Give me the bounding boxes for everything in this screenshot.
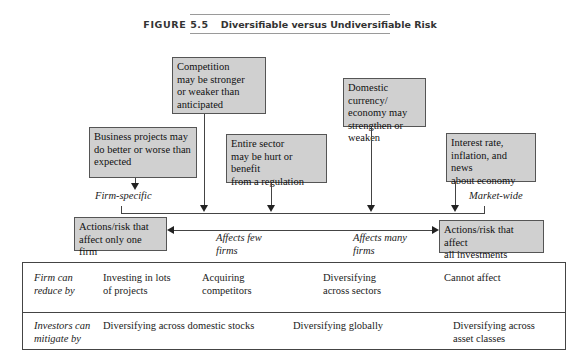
competition-line-2: may be stronger: [177, 74, 261, 87]
cell-line: competitors: [202, 284, 252, 297]
business-line-1: Business projects may: [94, 131, 192, 144]
affects-many-line-2: firms: [353, 245, 407, 258]
sector-connector: [271, 183, 272, 206]
competition-line-4: anticipated: [177, 99, 261, 112]
business-projects-box: Business projects may do better or worse…: [89, 127, 197, 178]
table-cell: Diversifying across asset classes: [453, 319, 535, 345]
arrow-down-icon: [367, 205, 375, 212]
interest-connector: [455, 182, 456, 206]
entire-sector-box: Entire sector may be hurt or benefit fro…: [226, 134, 327, 183]
interest-line-3: about economy: [451, 175, 531, 188]
arrow-down-icon: [200, 205, 208, 212]
domestic-line-1: Domestic currency/: [348, 82, 421, 107]
cell-line: Cannot affect: [444, 271, 501, 284]
double-arrow-line: [174, 230, 432, 231]
row-label-line: mitigate by: [34, 332, 90, 345]
all-investments-box: Actions/risk that affect all investments: [439, 220, 544, 253]
mitigation-table: Firm can reduce by Investing in lots of …: [22, 262, 566, 350]
table-cell: Acquiring competitors: [202, 271, 252, 297]
cell-line: asset classes: [453, 332, 535, 345]
row-label-line: Firm can: [34, 271, 75, 284]
domestic-line-3: strengthen or weaken: [348, 120, 421, 145]
one-firm-line-1: Actions/risk that: [79, 221, 162, 234]
row-label-investors: Investors can mitigate by: [34, 319, 90, 345]
table-divider: [23, 312, 565, 313]
risk-spectrum-line: [121, 213, 485, 214]
left-tick: [121, 206, 122, 214]
row-label-firm: Firm can reduce by: [34, 271, 75, 297]
sector-line-3: from a regulation: [231, 176, 322, 189]
table-cell: Diversifying across sectors: [323, 271, 381, 297]
cell-line: Acquiring: [202, 271, 252, 284]
all-investments-line-1: Actions/risk that affect: [444, 224, 539, 249]
figure-title-bar: FIGURE 5.5 Diversifiable versus Undivers…: [190, 14, 390, 34]
business-line-2: do better or worse than: [94, 144, 192, 157]
row-label-line: Investors can: [34, 319, 90, 332]
affects-many-label: Affects many firms: [353, 232, 407, 257]
arrow-down-icon: [267, 205, 275, 212]
cell-line: of projects: [103, 284, 171, 297]
competition-line-1: Competition: [177, 61, 261, 74]
affects-few-line-1: Affects few: [216, 232, 262, 245]
arrow-down-icon: [451, 205, 459, 212]
row-label-line: reduce by: [34, 284, 75, 297]
affects-few-line-2: firms: [216, 245, 262, 258]
competition-line-3: or weaker than: [177, 86, 261, 99]
figure-title: Diversifiable versus Undiversifiable Ris…: [221, 19, 437, 30]
cell-line: Diversifying globally: [293, 319, 383, 332]
firm-specific-label: Firm-specific: [95, 190, 152, 203]
table-cell: Diversifying globally: [293, 319, 383, 332]
arrow-right-icon: [432, 226, 439, 234]
interest-rate-box: Interest rate, inflation, and news about…: [446, 133, 536, 182]
cell-line: Diversifying across: [453, 319, 535, 332]
cell-line: across sectors: [323, 284, 381, 297]
competition-box: Competition may be stronger or weaker th…: [172, 57, 266, 114]
table-cell: Cannot affect: [444, 271, 501, 284]
one-firm-box: Actions/risk that affect only one firm: [74, 217, 167, 251]
market-wide-label: Market-wide: [469, 190, 523, 203]
domestic-currency-box: Domestic currency/ economy may strengthe…: [343, 78, 426, 127]
figure-number: FIGURE 5.5: [143, 19, 208, 30]
affects-many-line-1: Affects many: [353, 232, 407, 245]
affects-few-label: Affects few firms: [216, 232, 262, 257]
table-cell: Diversifying across domestic stocks: [103, 319, 254, 332]
competition-connector: [204, 114, 205, 206]
interest-line-2: inflation, and news: [451, 150, 531, 175]
all-investments-line-2: all investments: [444, 249, 539, 262]
sector-line-2: may be hurt or benefit: [231, 151, 322, 176]
sector-line-1: Entire sector: [231, 138, 322, 151]
domestic-line-2: economy may: [348, 107, 421, 120]
business-line-3: expected: [94, 156, 192, 169]
cell-line: Diversifying across domestic stocks: [103, 319, 254, 332]
cell-line: Investing in lots: [103, 271, 171, 284]
arrow-down-icon: [131, 183, 139, 190]
arrow-left-icon: [167, 226, 174, 234]
right-tick: [484, 206, 485, 214]
one-firm-line-2: affect only one firm: [79, 234, 162, 259]
interest-line-1: Interest rate,: [451, 137, 531, 150]
table-cell: Investing in lots of projects: [103, 271, 171, 297]
domestic-connector: [371, 127, 372, 206]
cell-line: Diversifying: [323, 271, 381, 284]
